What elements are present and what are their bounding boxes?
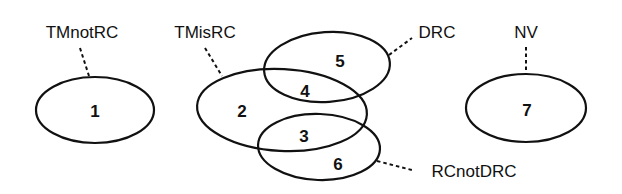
region-number-1: 1	[90, 102, 99, 121]
set-nv: NV	[466, 23, 586, 142]
region-number-4: 4	[300, 82, 310, 101]
ellipse-drc	[262, 28, 393, 107]
leader-line-rcnotdrc	[377, 161, 412, 170]
set-label-nv: NV	[514, 23, 538, 42]
region-number-2: 2	[237, 102, 246, 121]
leader-line-drc	[389, 38, 412, 55]
set-label-drc: DRC	[419, 23, 456, 42]
region-number-7: 7	[522, 101, 531, 120]
diagram-svg: TMnotRC TMisRC DRC NV RCnotDRC	[0, 0, 622, 194]
set-label-rcnotdrc: RCnotDRC	[431, 162, 516, 181]
set-rcnotdrc: RCnotDRC	[257, 112, 517, 182]
region-number-6: 6	[333, 155, 342, 174]
set-tmnotrc: TMnotRC	[36, 23, 154, 143]
venn-diagram: TMnotRC TMisRC DRC NV RCnotDRC	[0, 0, 622, 194]
leader-line-tmnotrc	[80, 48, 89, 76]
ellipse-tmisrc	[195, 65, 369, 156]
region-number-5: 5	[335, 52, 344, 71]
set-label-tmnotrc: TMnotRC	[46, 23, 119, 42]
set-label-tmisrc: TMisRC	[174, 23, 235, 42]
leader-line-tmisrc	[205, 48, 222, 76]
region-number-3: 3	[299, 127, 308, 146]
set-tmisrc: TMisRC	[174, 23, 369, 155]
ellipse-rcnotdrc	[257, 112, 381, 182]
